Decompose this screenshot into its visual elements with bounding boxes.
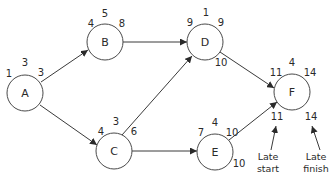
edge-a-c bbox=[40, 105, 97, 145]
node-f-early-start: 11 bbox=[270, 67, 283, 78]
node-e-label: E bbox=[212, 146, 219, 159]
node-e-late-finish: 10 bbox=[233, 158, 246, 169]
svg-text:Late: Late bbox=[306, 151, 327, 162]
node-f-late-finish: 14 bbox=[305, 111, 318, 122]
node-b-early-finish: 8 bbox=[119, 18, 125, 29]
node-d-early-start: 9 bbox=[187, 17, 193, 28]
node-b-early-start: 4 bbox=[88, 18, 94, 29]
node-f-duration: 4 bbox=[289, 57, 295, 68]
late-start-pointer bbox=[271, 126, 276, 150]
svg-text:finish: finish bbox=[303, 163, 329, 174]
node-c: C 3 4 6 bbox=[96, 116, 137, 169]
node-e: E 4 7 10 10 bbox=[197, 117, 245, 170]
edge-a-b bbox=[41, 50, 88, 82]
node-e-early-start: 7 bbox=[198, 127, 204, 138]
node-a-early-start: 1 bbox=[6, 68, 12, 79]
node-e-early-finish: 10 bbox=[226, 127, 239, 138]
node-c-label: C bbox=[110, 145, 118, 158]
network-diagram: A 3 1 3 B 5 4 8 C 3 4 6 D 1 9 9 10 E 4 7… bbox=[0, 0, 334, 181]
node-f: F 4 11 14 11 14 bbox=[270, 57, 318, 122]
node-c-early-finish: 6 bbox=[131, 126, 137, 137]
node-d: D 1 9 9 10 bbox=[187, 7, 228, 68]
node-d-label: D bbox=[201, 36, 209, 49]
node-b-duration: 5 bbox=[102, 8, 108, 19]
node-f-label: F bbox=[289, 86, 295, 99]
node-c-early-start: 4 bbox=[98, 126, 104, 137]
node-b: B 5 4 8 bbox=[87, 8, 125, 60]
node-b-label: B bbox=[101, 36, 109, 49]
svg-text:start: start bbox=[257, 163, 279, 174]
node-a-label: A bbox=[21, 87, 29, 100]
node-d-duration: 1 bbox=[203, 7, 209, 18]
node-e-duration: 4 bbox=[212, 117, 218, 128]
node-a: A 3 1 3 bbox=[6, 57, 44, 111]
node-d-late-finish: 10 bbox=[215, 57, 228, 68]
node-c-duration: 3 bbox=[113, 116, 119, 127]
node-f-early-finish: 14 bbox=[304, 67, 317, 78]
late-start-annotation: Late start bbox=[257, 151, 279, 174]
svg-text:Late: Late bbox=[258, 151, 279, 162]
edge-d-f bbox=[220, 52, 274, 88]
late-finish-pointer bbox=[312, 126, 320, 150]
node-f-late-start: 11 bbox=[271, 111, 284, 122]
node-d-early-finish: 9 bbox=[218, 17, 224, 28]
node-a-duration: 3 bbox=[22, 57, 28, 68]
node-a-early-finish: 3 bbox=[38, 67, 44, 78]
late-finish-annotation: Late finish bbox=[303, 151, 329, 174]
edge-c-d bbox=[122, 56, 192, 135]
